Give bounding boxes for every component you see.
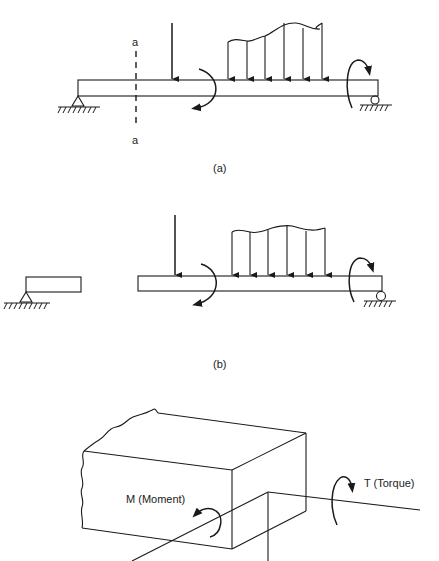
figure-a: a a (a) <box>58 23 392 174</box>
pin-support-icon <box>58 96 100 113</box>
caption-b: (b) <box>213 358 226 370</box>
beam-a <box>78 80 378 96</box>
applied-moment-arrow <box>197 264 216 304</box>
moment-label: M (Moment) <box>126 493 185 505</box>
section-label-top: a <box>132 36 139 48</box>
x-axis-line <box>268 492 420 510</box>
applied-moment-arrow <box>196 69 216 108</box>
end-moment-arrow <box>347 60 369 108</box>
caption-a: (a) <box>213 162 226 174</box>
broken-edge-left <box>81 451 84 528</box>
pin-support-icon <box>4 292 50 309</box>
section-label-bottom: a <box>132 134 139 146</box>
torque-label: T (Torque) <box>364 477 415 489</box>
roller-support-icon <box>364 292 396 308</box>
left-segment <box>26 277 81 292</box>
figure-c: M (Moment) T (Torque) <box>81 409 420 561</box>
end-moment-arrow <box>349 258 372 302</box>
beam-diagram-canvas: a a (a) <box>0 0 439 561</box>
distributed-load <box>232 226 325 275</box>
broken-edge-top <box>84 409 158 451</box>
right-segment <box>138 276 382 291</box>
distributed-load <box>228 23 322 79</box>
figure-b: (b) <box>4 215 396 370</box>
roller-support-icon <box>360 96 392 111</box>
